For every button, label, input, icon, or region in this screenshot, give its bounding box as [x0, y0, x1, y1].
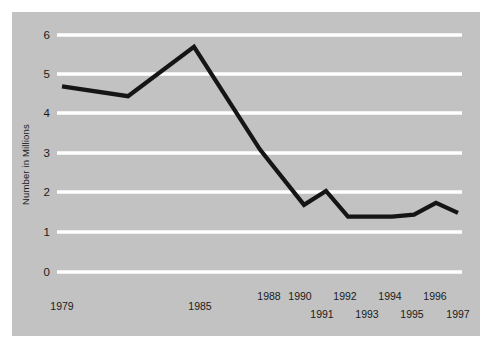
x-tick-label-1995: 1995: [400, 308, 424, 320]
x-tick-label-1993: 1993: [355, 308, 379, 320]
x-tick-label-1985: 1985: [188, 300, 212, 312]
y-tick-label-2: 2: [44, 186, 50, 198]
x-tick-label-1992: 1992: [333, 290, 357, 302]
y-tick-label-4: 4: [44, 107, 51, 119]
line-chart-svg: 6 5 4 3 2 1 0 Number in Millions 1979 19…: [0, 0, 491, 344]
y-tick-label-1: 1: [44, 226, 50, 238]
x-axis-ticks-bottom: 1991 1993 1995 1997: [310, 308, 470, 320]
y-axis-title: Number in Millions: [20, 124, 31, 205]
x-tick-label-1990: 1990: [288, 290, 312, 302]
x-tick-label-1994: 1994: [378, 290, 402, 302]
y-axis-ticks: 6 5 4 3 2 1 0: [44, 29, 51, 278]
x-axis-ticks-top: 1979 1985 1988 1990 1992 1994 1996: [50, 290, 447, 312]
gridlines: [57, 35, 462, 272]
x-tick-label-1997: 1997: [446, 308, 470, 320]
x-tick-label-1979: 1979: [50, 300, 74, 312]
y-tick-label-0: 0: [44, 266, 50, 278]
x-tick-label-1988: 1988: [257, 290, 281, 302]
chart-figure: 6 5 4 3 2 1 0 Number in Millions 1979 19…: [0, 0, 491, 344]
x-tick-label-1991: 1991: [310, 308, 334, 320]
y-tick-label-6: 6: [44, 29, 50, 41]
y-tick-label-3: 3: [44, 147, 50, 159]
y-tick-label-5: 5: [44, 68, 50, 80]
x-tick-label-1996: 1996: [423, 290, 447, 302]
